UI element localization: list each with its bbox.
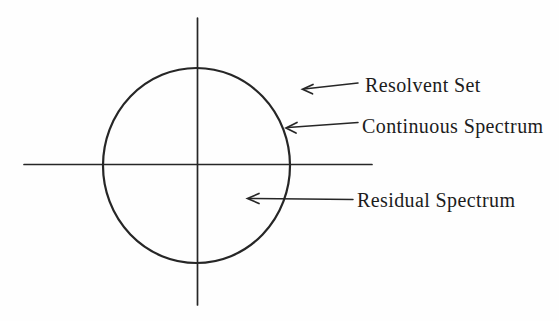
residual-spectrum-label: Residual Spectrum bbox=[357, 190, 515, 210]
resolvent-set-label: Resolvent Set bbox=[365, 75, 481, 95]
spectrum-diagram bbox=[0, 0, 559, 321]
spectrum-circle bbox=[103, 68, 290, 263]
resolvent-arrow bbox=[303, 83, 359, 94]
figure-canvas: Resolvent Set Continuous Spectrum Residu… bbox=[0, 0, 559, 321]
residual-spectrum-arrow bbox=[248, 194, 354, 204]
continuous-spectrum-arrow bbox=[286, 123, 358, 134]
continuous-spectrum-label: Continuous Spectrum bbox=[362, 116, 544, 136]
